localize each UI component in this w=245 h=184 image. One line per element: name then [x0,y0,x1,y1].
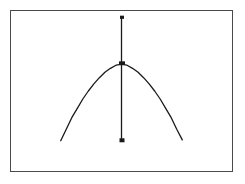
figure-root [0,0,245,184]
peak-marker-icon [119,61,125,65]
top-marker-icon [120,16,124,19]
bottom-marker-icon [120,138,125,142]
plot-canvas [0,0,245,184]
